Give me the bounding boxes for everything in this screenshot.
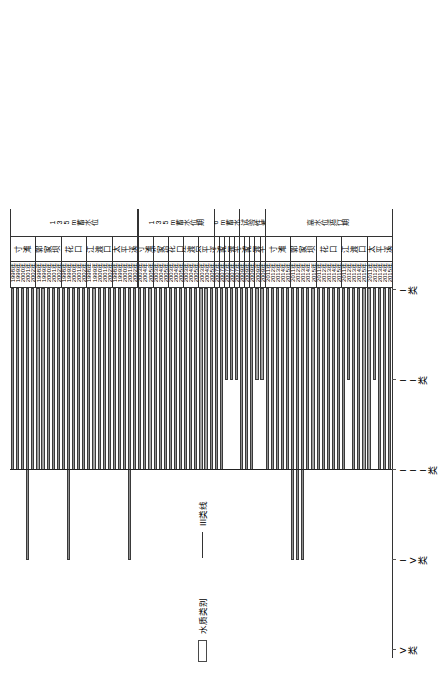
legend-label-class-iii-line: III类线 — [196, 501, 208, 526]
bar — [250, 288, 253, 470]
bar — [210, 288, 213, 470]
bar — [383, 288, 386, 470]
bar — [291, 288, 294, 560]
bar — [174, 288, 177, 470]
axis-tick — [392, 289, 396, 290]
bar — [286, 288, 289, 470]
station-label: 花口 — [316, 237, 341, 262]
legend-line-swatch — [202, 532, 203, 558]
axis-tick-label: III类 — [398, 450, 439, 490]
bar — [240, 288, 243, 470]
legend-bar-swatch — [198, 640, 207, 662]
bar — [123, 288, 126, 470]
bar — [306, 288, 309, 470]
bar — [194, 288, 197, 470]
bar — [266, 288, 269, 470]
axis-tick-label: V类 — [398, 630, 419, 670]
bar — [67, 288, 70, 560]
legend-item-class-iii-line: III类线 — [196, 501, 208, 558]
station-label: 寸滩 — [265, 237, 290, 262]
bar — [332, 288, 335, 470]
bar — [281, 288, 284, 470]
bar — [352, 288, 355, 470]
bar — [52, 288, 55, 470]
station-label: 江渡口 — [86, 237, 111, 262]
bar — [260, 288, 263, 380]
station-label: 郭家坝 — [35, 237, 60, 262]
axis-tick — [392, 649, 396, 650]
station-label: 寸滩 — [137, 237, 152, 262]
bar — [327, 288, 330, 470]
bar — [255, 288, 258, 380]
period-label: 高水位运行期 — [265, 209, 392, 237]
bar — [296, 288, 299, 560]
bar — [82, 288, 85, 470]
bar — [62, 288, 65, 470]
bar — [347, 288, 350, 380]
bar — [16, 288, 19, 470]
period-label: 135m蓄水位 — [10, 209, 137, 237]
bar — [11, 288, 14, 470]
bar — [98, 288, 101, 470]
bar — [220, 288, 223, 470]
bar — [276, 288, 279, 470]
bar — [108, 288, 111, 470]
bar — [72, 288, 75, 470]
station-label: 江渡口 — [183, 237, 198, 262]
period-label: 175m试验性蓄水位期 — [239, 209, 264, 237]
bar — [77, 288, 80, 470]
station-label: 郭家坝 — [290, 237, 315, 262]
bar — [204, 288, 207, 470]
bar — [154, 288, 157, 470]
bar — [113, 288, 116, 470]
bar — [26, 288, 29, 560]
bar — [225, 288, 228, 380]
station-label: 太平溪 — [367, 237, 392, 262]
bar — [245, 288, 248, 470]
bar — [41, 288, 44, 470]
bar — [215, 288, 218, 470]
bar — [271, 288, 274, 470]
bar — [230, 288, 233, 380]
bar — [87, 288, 90, 470]
bar — [317, 288, 320, 470]
station-label: 江渡口 — [341, 237, 366, 262]
bar — [199, 288, 202, 470]
axis-tick-label: II类 — [398, 360, 429, 400]
bar — [103, 288, 106, 470]
bar — [164, 288, 167, 470]
label-column-rule-0 — [10, 287, 392, 288]
axis-tick — [392, 469, 396, 470]
bar — [357, 288, 360, 470]
bar — [47, 288, 50, 470]
legend-label-water-quality-class: 水质类别 — [196, 598, 208, 634]
bar — [143, 288, 146, 470]
station-label: 花口 — [168, 237, 183, 262]
bar — [92, 288, 95, 470]
bar — [179, 288, 182, 470]
label-table-top-border — [10, 209, 11, 288]
bar — [31, 288, 34, 470]
label-column-rule-2 — [10, 236, 392, 237]
legend-item-water-quality-class: 水质类别 — [196, 598, 208, 662]
bar — [148, 288, 151, 470]
bar — [36, 288, 39, 470]
axis-tick-label: I类 — [398, 270, 419, 310]
axis-tick — [392, 379, 396, 380]
bar — [378, 288, 381, 470]
station-label: 寸滩 — [10, 237, 35, 262]
bar — [138, 288, 141, 470]
period-label: 156m蓄水位期 — [214, 209, 239, 237]
bar — [57, 288, 60, 470]
axis-tick — [392, 559, 396, 560]
value-axis-line — [392, 209, 393, 658]
bar — [118, 288, 121, 470]
bar — [189, 288, 192, 470]
bar — [342, 288, 345, 470]
bar — [367, 288, 370, 470]
bar — [337, 288, 340, 470]
station-label: 太平溪 — [198, 237, 213, 262]
label-column-rule-1 — [10, 261, 392, 262]
